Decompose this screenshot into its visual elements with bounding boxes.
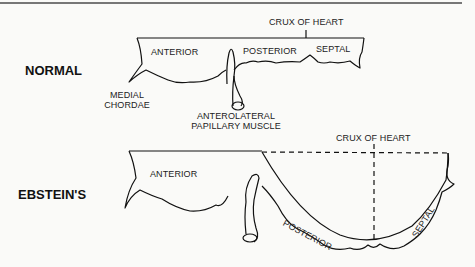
normal-posterior-label: POSTERIOR — [243, 46, 297, 56]
normal-crux-label: CRUX OF HEART — [269, 17, 344, 27]
papillary-line2: PAPILLARY MUSCLE — [186, 121, 286, 131]
ebstein-title: EBSTEIN'S — [18, 187, 86, 202]
medial-chordae-label: MEDIAL CHORDAE — [102, 90, 152, 110]
normal-title: NORMAL — [25, 63, 82, 78]
medial-chordae-line1: MEDIAL — [102, 90, 152, 100]
normal-valve-drawing — [129, 30, 364, 110]
normal-anterior-label: ANTERIOR — [151, 47, 198, 57]
medial-chordae-line2: CHORDAE — [102, 100, 152, 110]
papillary-line1: ANTEROLATERAL — [186, 111, 286, 121]
ebstein-valve-drawing — [125, 144, 454, 249]
papillary-muscle-label: ANTEROLATERAL PAPILLARY MUSCLE — [186, 111, 286, 131]
ebstein-anterior-label: ANTERIOR — [150, 169, 197, 179]
ebstein-crux-label: CRUX OF HEART — [336, 133, 411, 143]
normal-septal-label: SEPTAL — [316, 44, 350, 54]
